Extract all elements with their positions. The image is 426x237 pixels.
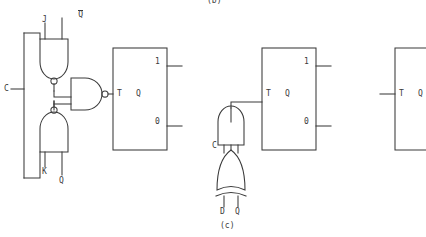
flipflop-b-out-low: 0	[155, 118, 160, 126]
input-label-clock-b: C	[4, 85, 9, 93]
flipflop-b-out-high: 1	[155, 58, 160, 66]
flipflop-c-t-label: T	[266, 90, 271, 98]
input-label-j: J	[42, 16, 47, 24]
input-label-d: D	[220, 208, 225, 216]
flipflop-box-right	[380, 48, 426, 150]
caption-c: (c)	[220, 222, 234, 230]
flipflop-c-out-low: 0	[304, 118, 309, 126]
flipflop-right-t-label: T	[399, 90, 404, 98]
input-label-qbar: Q	[59, 3, 83, 27]
nand-gate-bot-b	[40, 101, 68, 175]
wire-nandtop-to-nandmid	[54, 91, 71, 97]
flipflop-right-q-label: Q	[418, 90, 423, 98]
clock-bus-b	[11, 33, 24, 178]
clock-branch-top-b	[24, 33, 40, 39]
flipflop-c-q-label: Q	[285, 90, 290, 98]
nand-gate-top-b	[40, 18, 68, 91]
input-label-q-b: Q	[59, 177, 64, 185]
circuit-vector-layer	[0, 0, 426, 237]
clock-branch-bot-b	[24, 152, 40, 178]
flipflop-box-b	[113, 48, 182, 150]
flipflop-box-c	[262, 48, 331, 150]
flipflop-b-q-label: Q	[136, 90, 141, 98]
input-label-qbar-text: Q	[78, 10, 83, 19]
nand-gate-mid-b	[71, 78, 113, 110]
flipflop-c-out-high: 1	[304, 58, 309, 66]
figure-canvas: (b) J Q C K Q T Q 1 0 C D Q T Q 1 0 (c) …	[0, 0, 426, 237]
input-label-q-c: Q	[235, 208, 240, 216]
input-label-clock-c: C	[212, 142, 217, 150]
input-label-k: K	[42, 168, 47, 176]
caption-b: (b)	[207, 0, 221, 5]
flipflop-b-t-label: T	[117, 90, 122, 98]
xor-gate-c	[216, 150, 246, 207]
